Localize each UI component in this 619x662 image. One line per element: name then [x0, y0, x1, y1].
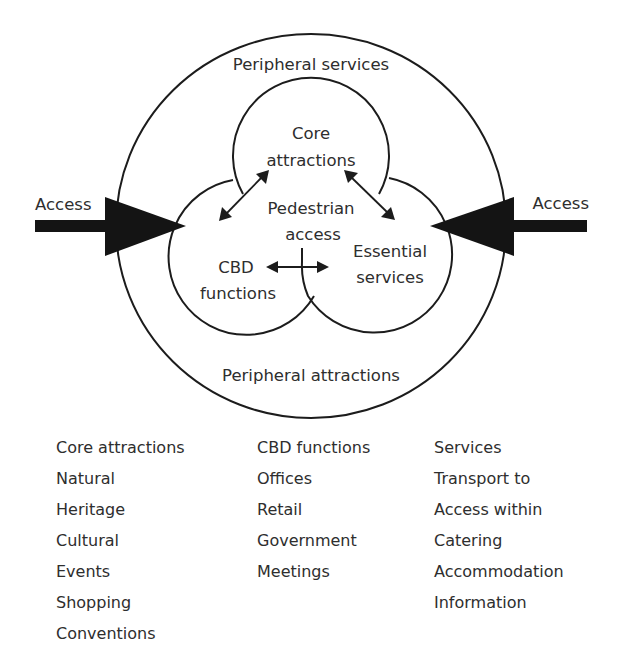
label-core-line1: Core [292, 124, 330, 143]
legend-item: Natural [56, 463, 185, 494]
legend-column-services: Services Transport to Access within Cate… [434, 432, 564, 618]
legend-item: Meetings [257, 556, 370, 587]
legend-item: Retail [257, 494, 370, 525]
legend-item: Information [434, 587, 564, 618]
label-peripheral-attractions: Peripheral attractions [222, 366, 400, 385]
legend-item: Conventions [56, 618, 185, 649]
double-arrow-cbd-services [266, 261, 329, 273]
label-services-line1: Essential [353, 242, 427, 261]
tourism-precinct-diagram: Peripheral services Peripheral attractio… [0, 0, 619, 430]
label-access-left: Access [35, 195, 92, 214]
double-arrow-core-cbd [219, 170, 269, 221]
legend-item: Shopping [56, 587, 185, 618]
legend-column-core-attractions: Core attractions Natural Heritage Cultur… [56, 432, 185, 649]
legend-item: Catering [434, 525, 564, 556]
label-services-line2: services [356, 268, 424, 287]
label-pedestrian-line2: access [285, 225, 341, 244]
legend-item: Events [56, 556, 185, 587]
legend-item: Transport to [434, 463, 564, 494]
legend-columns: Core attractions Natural Heritage Cultur… [0, 432, 619, 662]
label-peripheral-services: Peripheral services [233, 55, 389, 74]
label-pedestrian-line1: Pedestrian [267, 199, 354, 218]
legend-heading: CBD functions [257, 432, 370, 463]
legend-item: Heritage [56, 494, 185, 525]
label-access-right: Access [533, 194, 590, 213]
legend-item: Government [257, 525, 370, 556]
label-cbd-line2: functions [200, 284, 276, 303]
legend-item: Accommodation [434, 556, 564, 587]
legend-item: Cultural [56, 525, 185, 556]
legend-column-cbd-functions: CBD functions Offices Retail Government … [257, 432, 370, 587]
legend-item: Offices [257, 463, 370, 494]
legend-heading: Services [434, 432, 564, 463]
label-cbd-line1: CBD [218, 258, 254, 277]
label-core-line2: attractions [266, 151, 355, 170]
legend-heading: Core attractions [56, 432, 185, 463]
legend-item: Access within [434, 494, 564, 525]
